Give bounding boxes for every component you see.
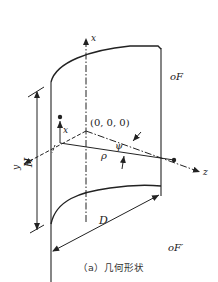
curved-surface-diagram: [0, 0, 218, 282]
x-axis-label: x: [91, 34, 96, 43]
surface-top-edge: [51, 46, 161, 82]
point-f-prime-label: oF′: [168, 243, 183, 253]
geometry-figure: x (0, 0, 0) x H y ψ ρ z D oF oF′ （a）几何形状: [0, 0, 218, 282]
local-point-dot: [58, 115, 62, 119]
point-dot: [172, 158, 176, 162]
point-f-label: oF: [170, 72, 183, 82]
origin-label: (0, 0, 0): [90, 118, 130, 128]
rho-label: ρ: [101, 151, 107, 161]
y-axis-label: y: [12, 165, 21, 170]
psi-label: ψ: [115, 141, 123, 151]
z-axis-label: z: [203, 168, 208, 177]
height-label: H: [23, 158, 34, 168]
figure-caption: （a）几何形状: [78, 260, 144, 274]
depth-label: D: [99, 215, 108, 226]
local-x-label: x: [63, 126, 68, 135]
